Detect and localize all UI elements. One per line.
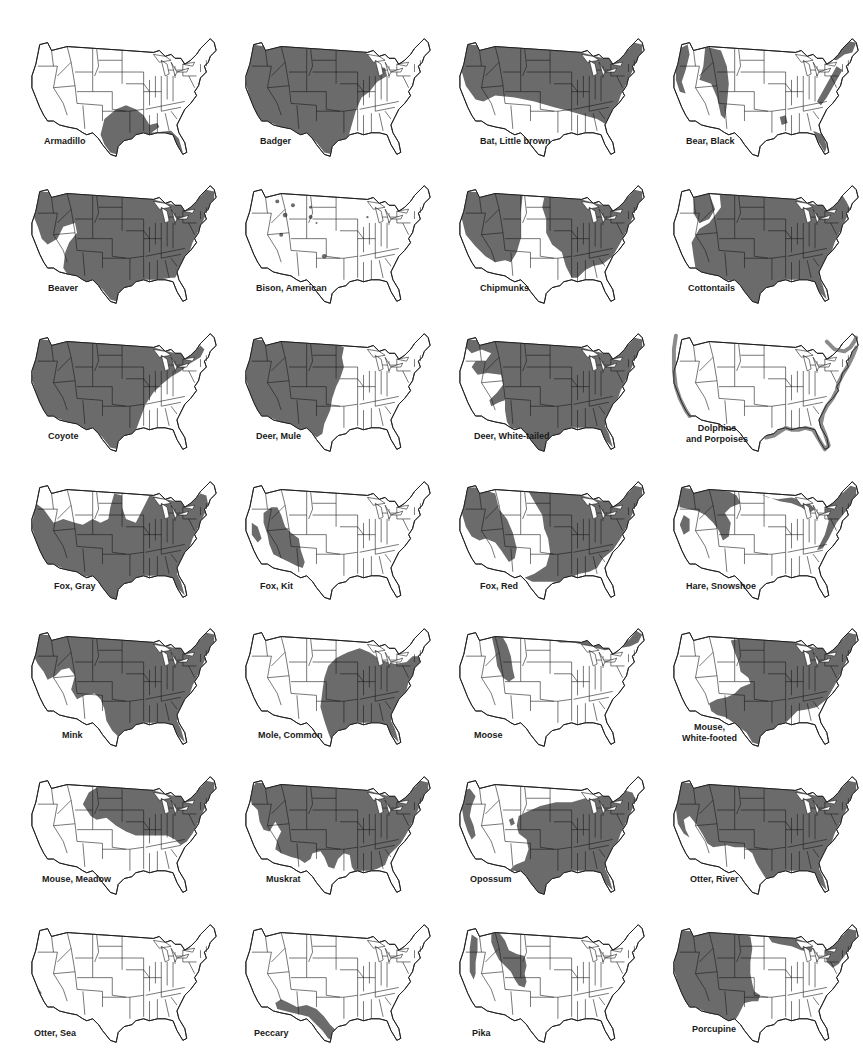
- map-label: Bear, Black: [686, 136, 735, 147]
- range-map-porcupine: Porcupine: [648, 904, 862, 1052]
- range-map-bison: Bison, American: [220, 165, 434, 313]
- map-label: Mink: [62, 730, 83, 741]
- map-label: Porcupine: [692, 1024, 736, 1035]
- map-label: Mouse,White-footed: [682, 722, 737, 744]
- range-map-wfmouse: Mouse,White-footed: [648, 608, 862, 756]
- map-label-line: Deer, Mule: [256, 431, 301, 442]
- map-label: Dolphinsand Porpoises: [686, 423, 748, 445]
- map-label: Moose: [474, 730, 503, 741]
- range-map-opossum: Opossum: [434, 756, 648, 904]
- range-map-bear: Bear, Black: [648, 18, 862, 166]
- map-label-line: Hare, Snowshoe: [686, 581, 756, 592]
- map-label-line: Muskrat: [266, 874, 301, 885]
- map-label-line: Peccary: [254, 1028, 289, 1039]
- map-label: Fox, Red: [480, 581, 518, 592]
- range-map-moose: Moose: [434, 608, 648, 756]
- map-label-line: Bison, American: [256, 283, 327, 294]
- map-label: Pika: [472, 1028, 491, 1039]
- map-label: Badger: [260, 136, 291, 147]
- map-label-line: Mole, Common: [258, 730, 323, 741]
- range-map-bat: Bat, Little brown: [434, 18, 648, 166]
- map-label: Otter, River: [690, 874, 739, 885]
- range-map-mink: Mink: [6, 608, 220, 756]
- map-label-line: Otter, Sea: [34, 1028, 76, 1039]
- range-map-chipmunk: Chipmunks: [434, 165, 648, 313]
- range-map-muskrat: Muskrat: [220, 756, 434, 904]
- range-map-peccary: Peccary: [220, 904, 434, 1052]
- map-label-line: Mink: [62, 730, 83, 741]
- range-map-armadillo: Armadillo: [6, 18, 220, 166]
- map-label: Fox, Kit: [260, 581, 293, 592]
- range-map-cottontail: Cottontails: [648, 165, 862, 313]
- range-map-dolphin: Dolphinsand Porpoises: [648, 313, 862, 461]
- map-label-line: Pika: [472, 1028, 491, 1039]
- map-label-line: Coyote: [48, 431, 79, 442]
- map-label-line: Deer, White-tailed: [474, 431, 550, 442]
- us-map-icon: [28, 626, 224, 750]
- map-label: Bat, Little brown: [480, 136, 551, 147]
- map-label-line: Dolphins: [686, 423, 748, 434]
- range-map-grayfox: Fox, Gray: [6, 461, 220, 609]
- map-label: Coyote: [48, 431, 79, 442]
- range-map-meadow: Mouse, Meadow: [6, 756, 220, 904]
- map-label: Beaver: [48, 283, 78, 294]
- map-label-line: Chipmunks: [480, 283, 529, 294]
- map-label-line: Fox, Red: [480, 581, 518, 592]
- range-map-redfox: Fox, Red: [434, 461, 648, 609]
- range-map-otter: Otter, River: [648, 756, 862, 904]
- map-label: Mole, Common: [258, 730, 323, 741]
- range-map-badger: Badger: [220, 18, 434, 166]
- map-label-line: Moose: [474, 730, 503, 741]
- map-label: Peccary: [254, 1028, 289, 1039]
- range-map-mule: Deer, Mule: [220, 313, 434, 461]
- map-label-line: Bear, Black: [686, 136, 735, 147]
- map-label-line: Bat, Little brown: [480, 136, 551, 147]
- map-label: Muskrat: [266, 874, 301, 885]
- map-label: Opossum: [470, 874, 512, 885]
- map-label-line: and Porpoises: [686, 434, 748, 445]
- map-label-line: Armadillo: [44, 136, 86, 147]
- map-label-line: Badger: [260, 136, 291, 147]
- map-label-line: Mouse,: [682, 722, 737, 733]
- range-map-pika: Pika: [434, 904, 648, 1052]
- map-label-line: White-footed: [682, 733, 737, 744]
- range-map-beaver: Beaver: [6, 165, 220, 313]
- map-label: Chipmunks: [480, 283, 529, 294]
- range-map-hare: Hare, Snowshoe: [648, 461, 862, 609]
- map-label-line: Fox, Kit: [260, 581, 293, 592]
- map-label-line: Cottontails: [688, 283, 735, 294]
- map-label-line: Opossum: [470, 874, 512, 885]
- map-label-line: Fox, Gray: [54, 581, 96, 592]
- map-label: Mouse, Meadow: [42, 874, 111, 885]
- range-map-coyote: Coyote: [6, 313, 220, 461]
- map-label-line: Mouse, Meadow: [42, 874, 111, 885]
- map-label: Hare, Snowshoe: [686, 581, 756, 592]
- map-label: Fox, Gray: [54, 581, 96, 592]
- map-label-line: Otter, River: [690, 874, 739, 885]
- map-label: Deer, White-tailed: [474, 431, 550, 442]
- map-label: Cottontails: [688, 283, 735, 294]
- map-label-line: Beaver: [48, 283, 78, 294]
- map-label: Deer, Mule: [256, 431, 301, 442]
- map-label: Otter, Sea: [34, 1028, 76, 1039]
- range-map-mole: Mole, Common: [220, 608, 434, 756]
- map-label-line: Porcupine: [692, 1024, 736, 1035]
- map-label: Bison, American: [256, 283, 327, 294]
- range-map-whitetail: Deer, White-tailed: [434, 313, 648, 461]
- map-label: Armadillo: [44, 136, 86, 147]
- range-map-kitfox: Fox, Kit: [220, 461, 434, 609]
- range-map-seaotter: Otter, Sea: [6, 904, 220, 1052]
